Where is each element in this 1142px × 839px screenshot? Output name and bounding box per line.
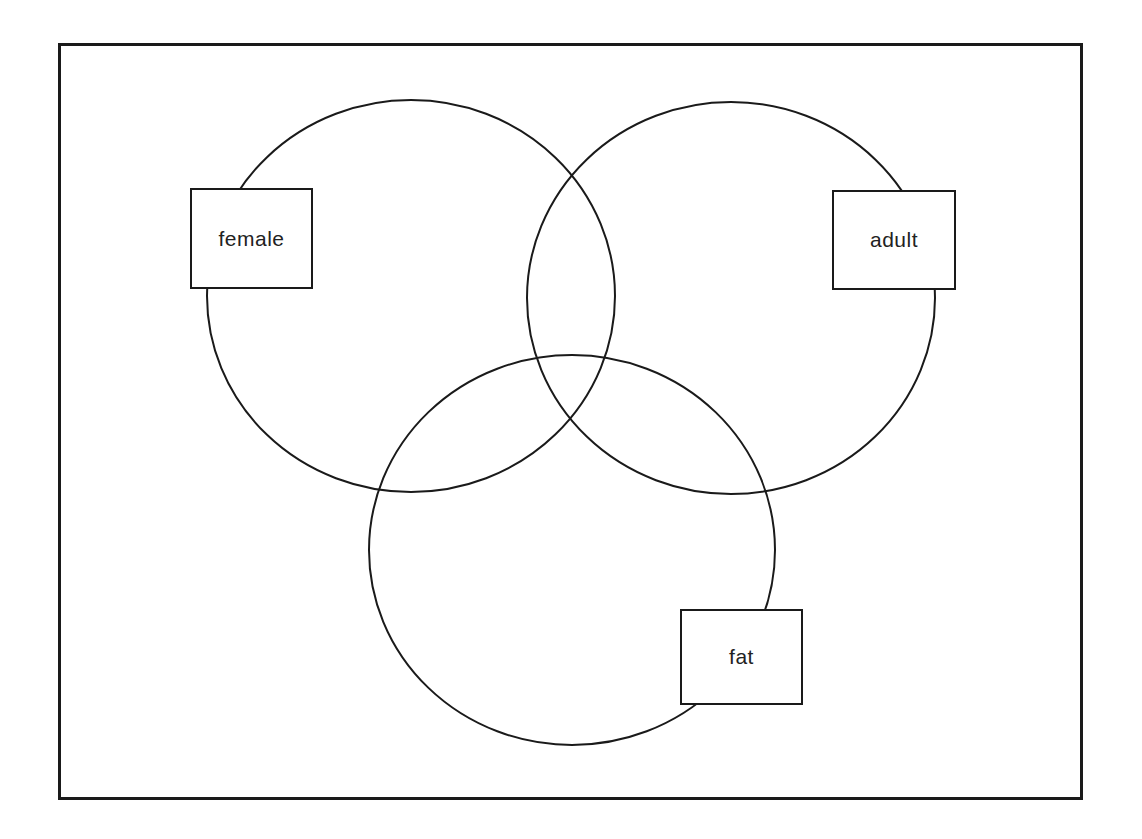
set-label-female: female — [190, 188, 313, 289]
set-circle-female — [207, 100, 615, 492]
venn-diagram — [0, 0, 1142, 839]
set-label-fat-text: fat — [729, 645, 754, 669]
set-label-adult: adult — [832, 190, 956, 290]
set-label-fat: fat — [680, 609, 803, 705]
set-label-adult-text: adult — [870, 228, 918, 252]
set-circle-adult — [527, 102, 935, 494]
set-label-female-text: female — [218, 227, 284, 251]
